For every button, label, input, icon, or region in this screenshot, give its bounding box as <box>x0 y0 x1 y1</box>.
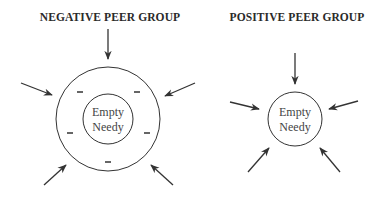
center-label-needy: Needy <box>92 120 123 134</box>
center-label-empty: Empty <box>279 105 311 119</box>
inner-circle <box>268 92 322 146</box>
arrow-icon-left <box>21 83 52 95</box>
arrow-icon-bottom-left <box>248 148 269 172</box>
arrow-icon-right <box>329 101 358 109</box>
arrow-icon-bottom-right <box>320 148 340 172</box>
arrow-icon-left <box>230 102 259 109</box>
center-label-needy: Needy <box>279 120 310 134</box>
outer-ring <box>56 67 160 171</box>
arrow-icon-bottom-left <box>44 165 66 185</box>
inner-circle <box>83 94 133 144</box>
peer-group-diagram: Empty Needy Empty Needy <box>0 0 378 197</box>
negative-peer-group: Empty Needy <box>21 29 195 185</box>
positive-peer-group: Empty Needy <box>230 53 358 172</box>
arrow-icon-bottom-right <box>151 165 173 185</box>
center-label-empty: Empty <box>92 105 124 119</box>
arrow-icon-right <box>165 83 195 96</box>
